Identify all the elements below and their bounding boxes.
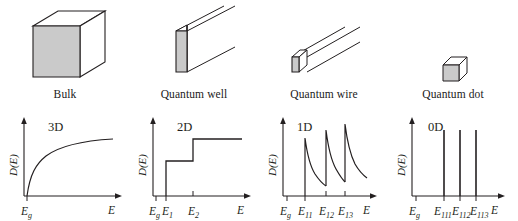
- x-axis-arrow: [498, 193, 505, 199]
- plot-label-1d: 1D: [297, 120, 312, 134]
- y-axis-label: D(E): [266, 154, 279, 177]
- dos-peak-1d-first: [305, 138, 326, 196]
- y-axis-arrow: [21, 117, 27, 124]
- shape-caption-bulk: Bulk: [0, 88, 130, 100]
- x-axis-arrow: [370, 193, 377, 199]
- y-axis-arrow: [280, 117, 286, 124]
- x-axis-arrow: [115, 193, 122, 199]
- x-axis-label: E: [236, 204, 244, 216]
- dos-curve-3d: [27, 139, 113, 196]
- wire-edge-top-right: [307, 27, 360, 57]
- panel-quantum-dot: Quantum dot 0D D(E) Eg E111 E1: [388, 0, 518, 221]
- shape-caption-quantum-dot: Quantum dot: [388, 88, 518, 100]
- slab-edge-line-top2: [187, 6, 235, 31]
- xtick-label-eg: Eg: [148, 205, 160, 220]
- xtick-label-e2: E2: [187, 205, 199, 220]
- shape-caption-quantum-wire: Quantum wire: [259, 88, 389, 100]
- plot-dos-0d: 0D D(E) Eg E111 E112 E113 E: [388, 108, 518, 221]
- shape-slab-quantum-well: [129, 0, 259, 88]
- dot-front-face: [443, 65, 459, 81]
- shape-small-cube-quantum-dot: [388, 0, 518, 88]
- panel-quantum-wire: Quantum wire 1D D(E) Eg: [259, 0, 389, 221]
- xtick-label-e1: E1: [161, 205, 173, 220]
- xtick-label-eg: Eg: [279, 205, 291, 220]
- plot-label-3d: 3D: [48, 120, 63, 134]
- xtick-label-e113: E113: [469, 205, 488, 220]
- plot-dos-1d: 1D D(E) Eg E11 E12 E13 E: [259, 108, 389, 221]
- shape-cube-bulk: [0, 0, 130, 88]
- cube-front-face: [33, 26, 80, 77]
- shape-caption-quantum-well: Quantum well: [129, 88, 259, 100]
- x-axis-label: E: [490, 204, 498, 216]
- panel-bulk: Bulk 3D D(E) Eg E: [0, 0, 130, 221]
- plot-dos-2d: 2D D(E) Eg E1 E2 E: [129, 108, 259, 221]
- xtick-label-eg: Eg: [408, 205, 420, 220]
- plot-label-0d: 0D: [428, 120, 443, 134]
- y-axis-label: D(E): [7, 154, 20, 177]
- y-axis-arrow: [409, 117, 415, 124]
- x-axis-arrow: [244, 193, 251, 199]
- xtick-label-e12: E12: [318, 205, 334, 220]
- shape-rod-quantum-wire: [259, 0, 389, 88]
- y-axis-label: D(E): [136, 154, 149, 177]
- xtick-label-e11: E11: [297, 205, 312, 220]
- dos-peak-1d-third: [345, 124, 367, 182]
- panel-quantum-well: Quantum well 2D D(E) Eg E1 E2 E: [129, 0, 259, 221]
- y-axis-label: D(E): [395, 154, 408, 177]
- dos-staircase-2d: [166, 139, 242, 196]
- wire-edge-bottom: [307, 42, 360, 72]
- slab-front-face: [176, 31, 187, 72]
- dos-dimensionality-figure: Bulk 3D D(E) Eg E: [0, 0, 518, 221]
- xtick-label-e111: E111: [433, 205, 452, 220]
- xtick-label-e112: E112: [451, 205, 470, 220]
- xtick-label-e13: E13: [337, 205, 353, 220]
- x-axis-label: E: [362, 204, 370, 216]
- x-axis-label: E: [107, 204, 115, 216]
- plot-dos-3d: 3D D(E) Eg E: [0, 108, 130, 221]
- slab-edge-line-bottom: [187, 47, 235, 72]
- xtick-label-eg: Eg: [20, 205, 32, 220]
- slab-top-face: [176, 25, 187, 31]
- y-axis-arrow: [150, 117, 156, 124]
- dos-peak-1d-second: [326, 130, 345, 186]
- wire-front-face: [292, 57, 299, 72]
- plot-label-2d: 2D: [177, 120, 192, 134]
